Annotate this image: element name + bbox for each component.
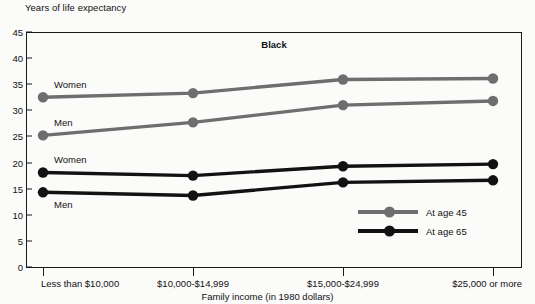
series-data-point xyxy=(188,88,198,98)
chart-figure: Years of life expectancy 051015202530354… xyxy=(0,0,535,304)
series-data-point xyxy=(338,100,348,110)
x-axis-tick-labels: Less than $10,000$10,000-$14,999$15,000-… xyxy=(0,278,535,292)
series-line xyxy=(43,78,493,97)
series-annotation-men: Men xyxy=(54,117,72,128)
legend-label: At age 45 xyxy=(426,207,467,218)
series-data-point xyxy=(338,74,348,84)
legend-item: At age 45 xyxy=(358,204,467,220)
x-axis-tick-mark xyxy=(193,268,194,276)
legend-label: At age 65 xyxy=(426,226,467,237)
series-annotation-women: Women xyxy=(54,79,87,90)
legend-swatch xyxy=(358,224,418,238)
series-annotation-women: Women xyxy=(54,154,87,165)
series-data-point xyxy=(188,190,198,200)
series-data-point xyxy=(38,187,48,197)
series-data-point xyxy=(188,170,198,180)
series-data-point xyxy=(488,159,498,169)
chart-legend: At age 45At age 65 xyxy=(358,204,508,242)
series-data-point xyxy=(488,73,498,83)
x-axis-tick-label: $15,000-$24,999 xyxy=(307,278,379,289)
series-data-point xyxy=(38,167,48,177)
series-line xyxy=(43,180,493,195)
series-line xyxy=(43,101,493,135)
x-axis-tick-label: $25,000 or more xyxy=(452,278,522,289)
series-data-point xyxy=(338,177,348,187)
legend-item: At age 65 xyxy=(358,223,467,239)
x-axis-tick-label: Less than $10,000 xyxy=(41,278,119,289)
legend-dot xyxy=(384,226,395,237)
series-data-point xyxy=(338,161,348,171)
x-axis-tick-marks xyxy=(0,268,535,278)
legend-swatch xyxy=(358,205,418,219)
series-data-point xyxy=(488,175,498,185)
series-data-point xyxy=(38,130,48,140)
legend-dot xyxy=(384,207,395,218)
series-data-point xyxy=(38,92,48,102)
series-data-point xyxy=(488,96,498,106)
series-line xyxy=(43,164,493,175)
x-axis-tick-label: $10,000-$14,999 xyxy=(157,278,229,289)
series-data-point xyxy=(188,117,198,127)
x-axis-tick-mark xyxy=(493,268,494,276)
series-annotation-men: Men xyxy=(54,199,72,210)
x-axis-title: Family income (in 1980 dollars) xyxy=(0,291,535,302)
x-axis-tick-mark xyxy=(43,268,44,276)
x-axis-tick-mark xyxy=(343,268,344,276)
chart-series-layer xyxy=(0,0,535,304)
